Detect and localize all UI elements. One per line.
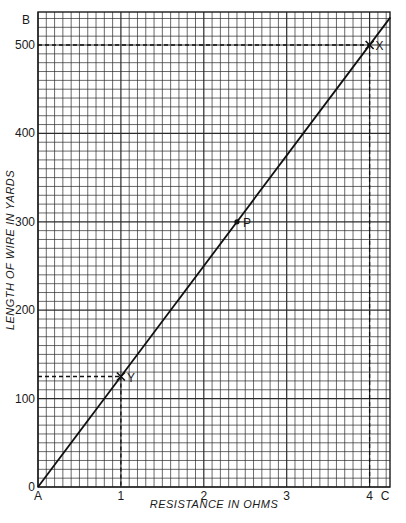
x-axis-end-label-c: C [381, 489, 390, 503]
point-label-x: X [376, 39, 384, 53]
y-axis-end-label-b: B [22, 13, 30, 27]
origin-label-a: A [34, 489, 42, 503]
x-tick-label: 1 [118, 489, 125, 503]
line-chart: YPX 01002003004005001234 RESISTANCE IN O… [0, 0, 406, 523]
x-tick-label: 4 [366, 489, 373, 503]
y-tick-label: 100 [15, 392, 35, 406]
point-label-p: P [243, 216, 251, 230]
data-points: YPX [117, 39, 384, 385]
x-tick-label: 3 [283, 489, 290, 503]
y-axis-label: LENGTH OF WIRE IN YARDS [4, 170, 16, 330]
x-axis-label: RESISTANCE IN OHMS [150, 498, 279, 510]
y-tick-label: 400 [15, 126, 35, 140]
point-label-y: Y [127, 371, 135, 385]
y-tick-label: 500 [15, 38, 35, 52]
y-tick-label: 300 [15, 215, 35, 229]
y-tick-label: 200 [15, 303, 35, 317]
